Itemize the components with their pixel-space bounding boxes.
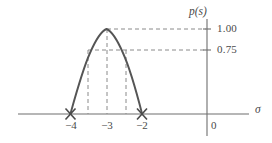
x-tick-label-minus4: −4: [62, 120, 80, 131]
x-axis-label: σ: [255, 104, 261, 116]
y-tick-label-1.00: 1.00: [217, 23, 237, 34]
parabola-plot-figure: p(s) 1.00 0.75 −4 −3 −2 0 σ: [0, 0, 272, 143]
x-tick-label-minus2: −2: [133, 120, 151, 131]
x-tick-label-minus3: −3: [98, 120, 116, 131]
y-tick-label-0.75: 0.75: [217, 44, 237, 55]
parabola-curve: [71, 29, 143, 114]
y-axis-label: p(s): [189, 6, 207, 18]
origin-label: 0: [211, 120, 217, 131]
